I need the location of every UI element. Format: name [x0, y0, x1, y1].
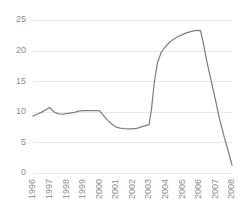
x-axis-tick-label: 2004	[160, 179, 170, 199]
y-axis-tick-labels: 0510152025	[16, 14, 26, 177]
y-axis-tick-label: 25	[16, 14, 26, 24]
x-axis-tick-labels: 1996199719981999200020012002200320042005…	[27, 179, 236, 199]
line-chart: 0510152025 19961997199819992000200120022…	[0, 0, 248, 222]
data-series	[33, 30, 232, 165]
x-axis-tick-label: 2007	[210, 179, 220, 199]
gridlines	[33, 21, 232, 174]
y-axis-tick-label: 5	[21, 137, 26, 147]
x-axis-tick-label: 2008	[226, 179, 236, 199]
x-axis-tick-label: 2002	[127, 179, 137, 199]
x-axis-tick-label: 2001	[110, 179, 120, 199]
y-axis-tick-label: 15	[16, 76, 26, 86]
x-axis-tick-label: 2005	[177, 179, 187, 199]
x-axis-tick-label: 1999	[77, 179, 87, 199]
y-axis-tick-label: 10	[16, 106, 26, 116]
x-axis-tick-label: 2000	[94, 179, 104, 199]
x-axis-tick-label: 2003	[143, 179, 153, 199]
y-axis-tick-label: 20	[16, 45, 26, 55]
x-axis-tick-label: 1997	[44, 179, 54, 199]
series-line	[33, 30, 232, 165]
y-axis-tick-label: 0	[21, 167, 26, 177]
x-axis-tick-label: 2006	[193, 179, 203, 199]
chart-canvas: 0510152025 19961997199819992000200120022…	[0, 0, 248, 222]
x-axis-tick-label: 1998	[61, 179, 71, 199]
x-axis-tick-label: 1996	[27, 179, 37, 199]
